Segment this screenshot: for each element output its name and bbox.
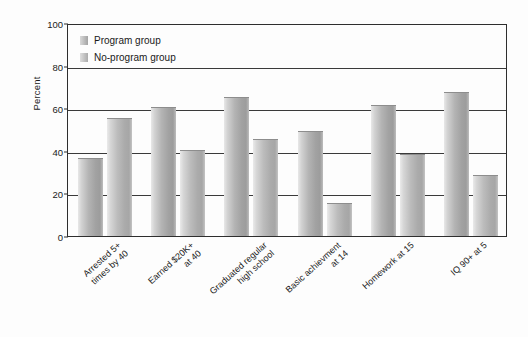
y-axis: 020406080100 — [22, 24, 63, 237]
y-tick-label: 100 — [23, 19, 63, 30]
y-tick-label: 60 — [23, 104, 63, 115]
bar-program-group — [151, 107, 176, 236]
bar-program-group — [444, 92, 469, 236]
bar-no-program-group — [400, 154, 425, 236]
y-tick-label: 80 — [23, 61, 63, 72]
bar-no-program-group — [107, 118, 132, 236]
y-axis-title: Percent — [31, 34, 42, 154]
y-tick-label: 40 — [23, 146, 63, 157]
y-tick-label: 0 — [23, 232, 63, 243]
bar-chart-figure: 020406080100 Percent Program group No-pr… — [0, 0, 528, 337]
bar-no-program-group — [253, 139, 278, 236]
bar-no-program-group — [473, 175, 498, 236]
bar-program-group — [224, 97, 249, 236]
bar-program-group — [78, 158, 103, 236]
y-tick-label: 20 — [23, 189, 63, 200]
bar-program-group — [371, 105, 396, 236]
x-axis-labels: Arrested 5+ times by 40Earned $20K+ at 4… — [67, 240, 507, 335]
bar-series-container — [68, 25, 506, 236]
bar-no-program-group — [180, 150, 205, 236]
plot-area: Program group No-program group — [67, 24, 507, 237]
bar-program-group — [298, 131, 323, 236]
bar-no-program-group — [327, 203, 352, 236]
